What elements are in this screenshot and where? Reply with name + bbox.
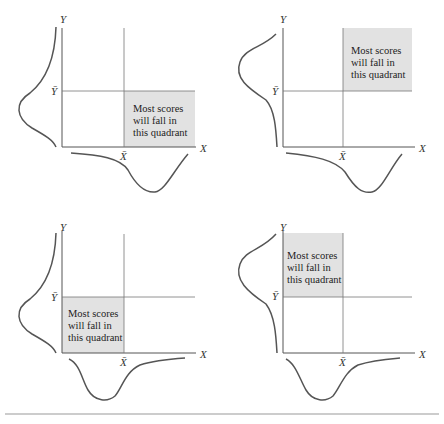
quadrant-text-line: this quadrant — [287, 274, 342, 285]
y-axis-label: Y — [60, 13, 68, 25]
quadrant-text-line: Most scores — [68, 308, 118, 319]
x-distribution-curve — [71, 153, 188, 192]
y-mean-label: Ȳ — [272, 290, 280, 302]
x-mean-label: X̄ — [338, 356, 347, 368]
quadrant-text-line: will fall in — [287, 262, 331, 273]
quadrant-text-line: Most scores — [133, 103, 183, 114]
x-mean-label: X̄ — [119, 150, 128, 162]
quadrant-text-line: Most scores — [287, 250, 337, 261]
x-mean-label: X̄ — [338, 150, 347, 162]
quadrant-text-line: will fall in — [68, 320, 112, 331]
y-mean-label: Ȳ — [51, 85, 59, 97]
y-axis-label: Y — [60, 221, 68, 233]
x-mean-label: X̄ — [119, 356, 128, 368]
y-mean-label: Ȳ — [272, 85, 280, 97]
panel-top-right: Y X Ȳ X̄ Most scores will fall in this q… — [239, 13, 427, 192]
panel-bottom-right: Y X Ȳ X̄ Most scores will fall in this q… — [239, 221, 427, 400]
quadrant-text-line: will fall in — [351, 57, 395, 68]
y-axis-label: Y — [280, 13, 288, 25]
x-axis-label: X — [418, 348, 427, 360]
panel-top-left: Y X Ȳ X̄ Most scores will fall in this q… — [19, 13, 208, 192]
quadrant-diagram: Y X Ȳ X̄ Most scores will fall in this q… — [0, 0, 444, 424]
x-distribution-curve — [69, 358, 185, 400]
x-axis-label: X — [418, 142, 427, 154]
quadrant-text-line: this quadrant — [351, 69, 406, 80]
y-mean-label: Ȳ — [51, 291, 59, 303]
quadrant-text-line: this quadrant — [133, 127, 188, 138]
quadrant-text-line: this quadrant — [68, 332, 123, 343]
quadrant-text-line: Most scores — [351, 45, 401, 56]
x-axis-label: X — [199, 348, 208, 360]
quadrant-text-line: will fall in — [133, 115, 177, 126]
panel-bottom-left: Y X Ȳ X̄ Most scores will fall in this q… — [19, 221, 208, 400]
y-axis-label: Y — [280, 221, 288, 233]
x-axis-label: X — [199, 142, 208, 154]
